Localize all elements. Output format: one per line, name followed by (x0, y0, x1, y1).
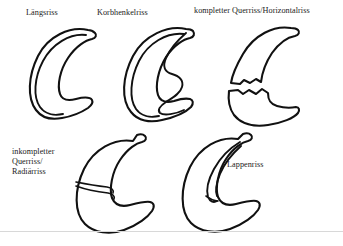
flap-fragment-inner-edge-flap (216, 146, 241, 196)
label-flap: Lappenriss (227, 160, 263, 170)
meniscus-diagrams-canvas (0, 0, 343, 246)
tear-outer-arc-bucket-handle (131, 34, 184, 117)
meniscus-tear-figure: Längsriss Korbhenkelriss kompletter Quer… (0, 0, 343, 246)
diagram-complete-transverse (229, 27, 299, 125)
diagram-longitudinal (30, 29, 96, 119)
label-longitudinal: Längsriss (26, 8, 58, 18)
bottom-rule (0, 231, 343, 232)
meniscus-outline-bucket-handle (124, 28, 194, 121)
meniscus-outline-longitudinal (30, 29, 96, 119)
flap-base-notch-flap (206, 196, 218, 201)
label-incomplete-radial-line-1: inkompletter (12, 147, 54, 157)
diagram-flap (183, 133, 260, 231)
radial-tear-lower-edge-incomplete-radial (76, 186, 114, 199)
meniscus-lower-fragment-complete-transverse (229, 89, 299, 126)
meniscus-outline-incomplete-radial (77, 134, 154, 232)
meniscus-outline-flap (183, 133, 260, 231)
diagram-incomplete-radial (76, 134, 154, 232)
tear-line-longitudinal (35, 35, 86, 115)
label-complete-transverse: kompletter Querriss/Horizontalriss (194, 6, 310, 16)
meniscus-upper-fragment-complete-transverse (231, 27, 299, 84)
bucket-handle-fragment-bucket-handle (159, 33, 186, 114)
label-bucket-handle: Korbhenkelriss (97, 8, 148, 18)
radial-tear-upper-edge-incomplete-radial (76, 182, 113, 193)
diagram-bucket-handle (124, 28, 194, 121)
label-incomplete-radial-line-3: Radiärriss (12, 167, 46, 177)
label-incomplete-radial-line-2: Querriss/ (12, 157, 42, 167)
flap-fragment-outline-flap (207, 142, 240, 202)
